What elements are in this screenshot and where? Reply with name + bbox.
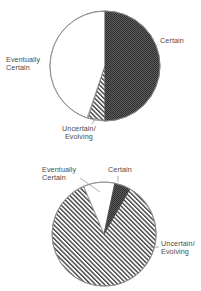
bottom-pie-chart — [52, 176, 159, 286]
top-label-uncertain-evolving: Uncertain/ Evolving — [62, 125, 96, 141]
top-label-eventually-certain: Eventually Certain — [6, 56, 40, 72]
bottom-label-eventually-certain: Eventually Certain — [42, 166, 76, 182]
bottom-label-certain: Certain — [108, 166, 132, 174]
bottom-label-uncertain-evolving: Uncertain/ Evolving — [161, 240, 195, 256]
top-pie-chart — [50, 11, 160, 124]
top-slice-certain — [105, 11, 160, 121]
top-label-certain: Certain — [160, 37, 184, 45]
pie-chart-figure: Eventually Certain Certain Uncertain/ Ev… — [0, 0, 201, 291]
